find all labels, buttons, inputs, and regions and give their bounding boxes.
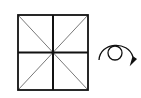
paper-square [18,15,88,90]
center-point [52,51,55,54]
origami-diagram [0,0,141,98]
turn-over-icon [99,45,136,64]
